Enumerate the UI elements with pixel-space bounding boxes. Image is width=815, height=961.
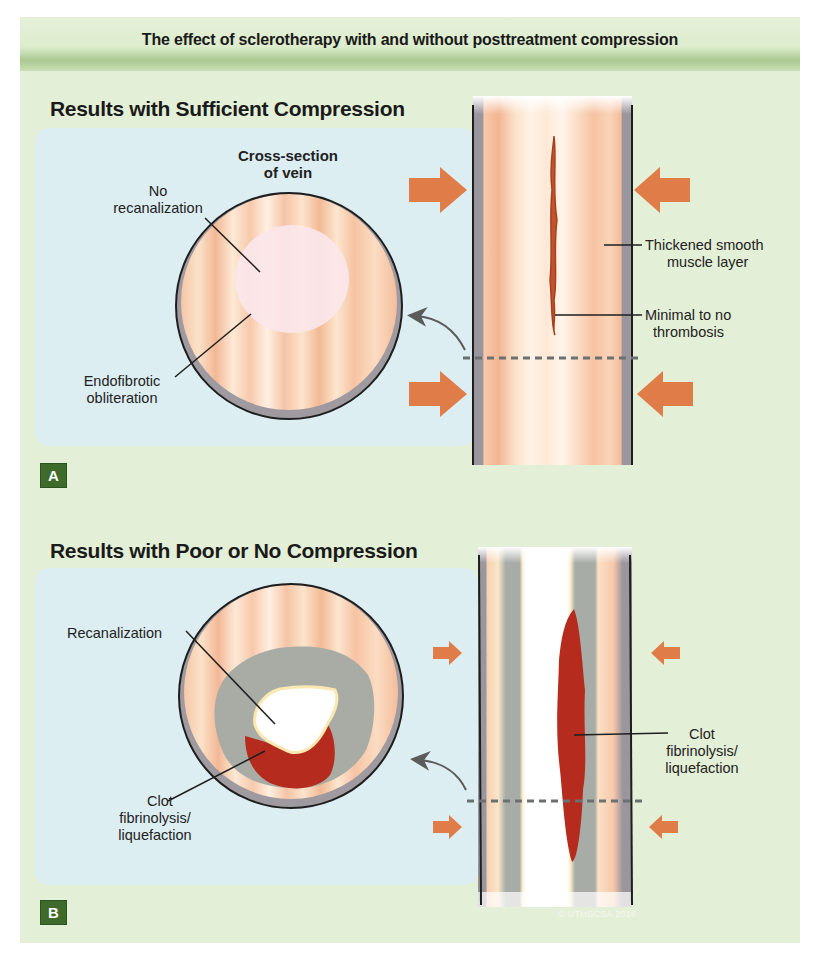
label-thickened-smooth-muscle: Thickened smooth muscle layer: [645, 237, 805, 271]
arrow-right-icon: [433, 815, 462, 839]
label-clot-fibrinolysis-cross-section: Clot fibrinolysis/ liquefaction: [100, 793, 210, 844]
label-no-recanalization: No recanalization: [98, 183, 218, 217]
copyright: © UTHSCSA 2016: [558, 909, 636, 919]
arrow-right-icon: [409, 371, 467, 417]
arrow-left-icon: [649, 815, 678, 839]
label-recanalization: Recanalization: [67, 625, 197, 642]
label-clot-fibrinolysis-vein: Clot fibrinolysis/ liquefaction: [652, 726, 752, 777]
label-minimal-thrombosis: Minimal to no thrombosis: [645, 307, 805, 341]
label-endofibrotic-obliteration: Endofibrotic obliteration: [62, 373, 182, 407]
arrow-left-icon: [634, 167, 690, 213]
panel-a-vein: [463, 96, 642, 465]
panel-b-cross-section: [168, 584, 466, 808]
curved-arrow-icon: [417, 316, 465, 350]
arrow-right-icon: [433, 641, 462, 665]
arrow-right-icon: [409, 167, 467, 213]
arrow-left-icon: [637, 371, 693, 417]
panel-b-vein: [467, 547, 668, 907]
cross-section-label: Cross-section of vein: [228, 147, 348, 181]
arrow-left-icon: [651, 641, 680, 665]
curved-arrow-icon: [420, 760, 466, 790]
